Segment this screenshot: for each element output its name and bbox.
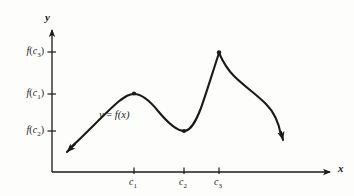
y-tick-label-fc2-close: ) [41, 124, 44, 135]
curve-right-tail-arrow [281, 132, 283, 140]
x-tick-label-c2-sub: 2 [183, 182, 187, 190]
x-tick-label-c3-sub: 3 [218, 182, 222, 190]
y-tick-label-fc3-close: ) [41, 45, 44, 56]
curve-left-tail-arrow [67, 144, 75, 152]
x-axis [52, 168, 330, 175]
x-tick-label-c1: c1 [129, 177, 137, 190]
critical-point-dot-c2 [182, 129, 186, 133]
figure-canvas [0, 0, 354, 196]
y-tick-label-fc1-close: ) [41, 87, 44, 98]
y-axis-label: y [45, 12, 50, 23]
curve-equation-fx: f(x) [115, 109, 130, 120]
x-tick-label-c3: c3 [214, 177, 222, 190]
function-graph-figure: y x f(c3) f(c1) f(c2) c1 c2 c3 y = f(x) [0, 0, 354, 196]
y-tick-label-fc3: f(c3) [0, 46, 44, 59]
critical-point-dot-c3 [217, 50, 221, 54]
curve-equation-label: y = f(x) [99, 110, 129, 121]
curve-segment-left [70, 53, 219, 148]
y-tick-label-fc1: f(c1) [0, 88, 44, 101]
y-axis [48, 30, 57, 172]
function-curve [67, 50, 283, 152]
critical-point-dot-c1 [132, 91, 136, 95]
x-tick-label-c2: c2 [179, 177, 187, 190]
x-axis-label: x [338, 163, 344, 174]
x-tick-label-c1-sub: 1 [133, 182, 137, 190]
y-tick-label-fc2: f(c2) [0, 125, 44, 138]
curve-equation-equals: = [104, 109, 115, 120]
curve-segment-right [219, 53, 281, 135]
